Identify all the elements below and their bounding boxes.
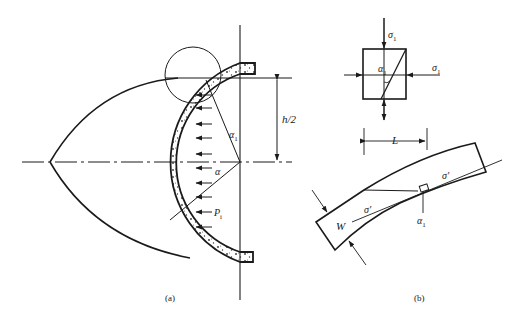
pressure-arrows bbox=[196, 95, 212, 227]
lens-curve-lower bbox=[50, 162, 190, 258]
label-sigma-prime-upper: σ' bbox=[442, 171, 449, 181]
ring-band bbox=[171, 63, 255, 262]
caption-b: (b) bbox=[414, 294, 425, 303]
label-alpha1-box: α1 bbox=[378, 64, 387, 77]
curved-beam bbox=[316, 143, 486, 250]
label-sigma1-top: σ1 bbox=[388, 30, 396, 43]
width-dimension-arrow-top bbox=[312, 190, 327, 212]
label-half-height: h/2 bbox=[282, 114, 296, 125]
figure-canvas bbox=[0, 0, 517, 325]
label-sigma1-right: σ1 bbox=[432, 63, 440, 76]
detail-circle bbox=[165, 47, 221, 103]
label-alpha: α bbox=[215, 167, 220, 177]
label-pressure: Pi bbox=[214, 208, 222, 221]
label-alpha1: α1 bbox=[229, 130, 238, 143]
label-alpha1-beam: α1 bbox=[417, 216, 426, 229]
radius-alpha1 bbox=[206, 80, 240, 162]
caption-a: (a) bbox=[165, 294, 175, 303]
label-sigma-prime-lower: σ' bbox=[364, 205, 371, 215]
width-dimension-arrow-bottom bbox=[349, 241, 366, 265]
label-length: L bbox=[392, 135, 398, 146]
label-width: W bbox=[336, 221, 345, 232]
lens-curve-upper bbox=[50, 78, 178, 162]
